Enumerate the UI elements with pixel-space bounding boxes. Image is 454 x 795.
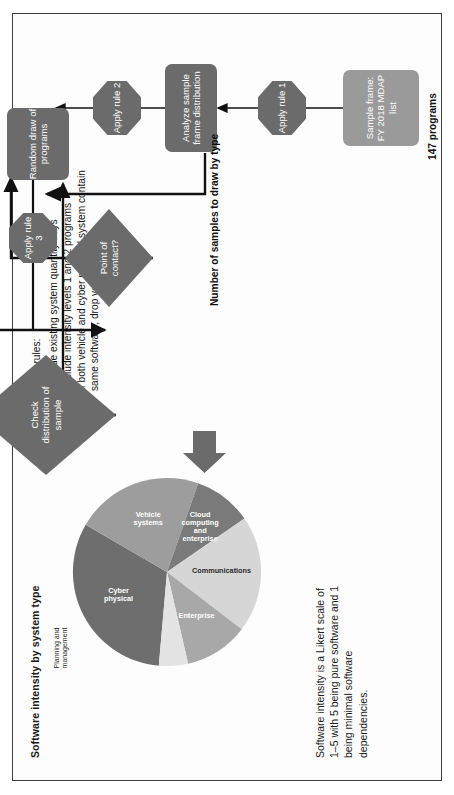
figure-page: Software intensity by system type Planni… xyxy=(0,0,454,795)
figure-sheet: Software intensity by system type Planni… xyxy=(12,13,442,781)
rotated-canvas: Software intensity by system type Planni… xyxy=(0,0,454,795)
analyze-to-pie-arrow-svg xyxy=(13,12,443,780)
analyze-to-pie-arrow xyxy=(183,431,226,473)
